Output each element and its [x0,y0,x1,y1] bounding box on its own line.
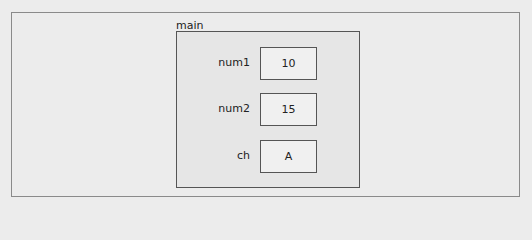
variable-name-num1: num1 [190,56,250,69]
variable-name-ch: ch [190,149,250,162]
variable-value-num1: 10 [260,47,317,80]
variable-value-num2: 15 [260,93,317,126]
variable-value-ch: A [260,140,317,173]
variable-name-num2: num2 [190,102,250,115]
